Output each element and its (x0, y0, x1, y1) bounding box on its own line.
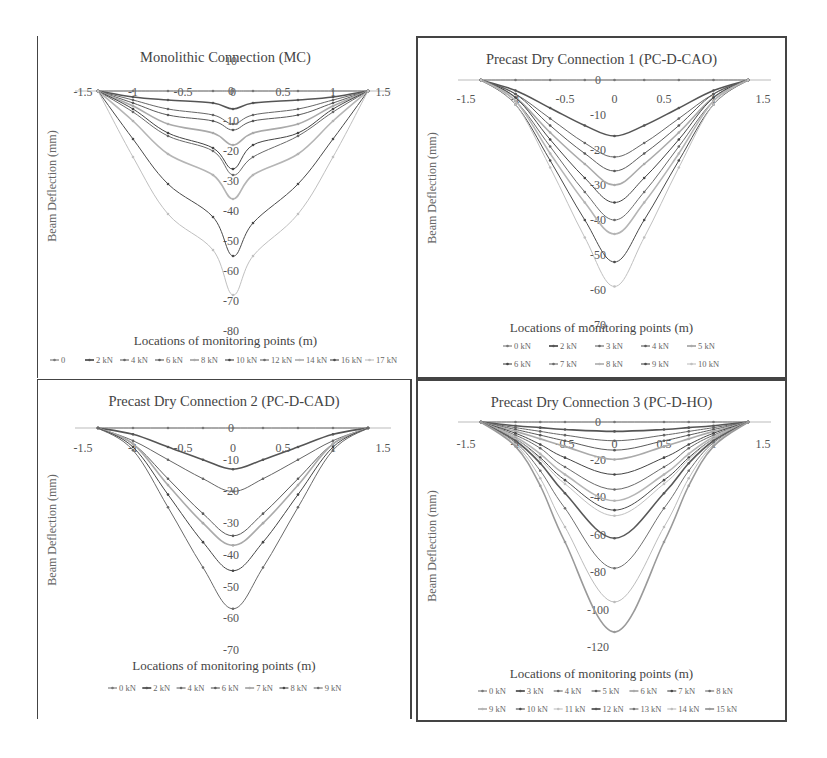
legend-marker-icon (123, 359, 126, 362)
data-marker (643, 177, 646, 180)
data-marker (584, 124, 587, 127)
data-marker (167, 135, 170, 138)
data-marker (539, 430, 542, 433)
legend-marker-icon (158, 359, 161, 362)
data-marker (564, 541, 567, 544)
data-marker (643, 201, 646, 204)
legend-item: 12 kN (260, 355, 292, 365)
legend-marker-icon (644, 363, 647, 366)
data-marker (613, 156, 616, 159)
data-marker (202, 512, 205, 515)
x-tick-label: 0.5 (657, 437, 672, 451)
legend-label: 8 kN (606, 359, 623, 369)
legend-label: 13 kN (640, 704, 661, 714)
data-marker (584, 177, 587, 180)
legend-marker-icon (595, 690, 598, 693)
y-tick-label: -30 (223, 174, 239, 188)
chart-ho: Precast Dry Connection 3 (PC-D-HO)-1.5-1… (418, 381, 785, 720)
legend-item: 7 kN (667, 686, 695, 696)
legend-marker-icon (519, 708, 522, 711)
data-marker (663, 483, 666, 486)
data-marker (687, 421, 690, 424)
chart-cad: Precast Dry Connection 2 (PC-D-CAD)-1.5-… (38, 380, 410, 718)
data-marker (663, 479, 666, 482)
data-marker (687, 443, 690, 446)
y-tick-label: -50 (590, 248, 606, 262)
data-marker (539, 477, 542, 480)
data-marker (167, 90, 170, 93)
legend-marker-icon (633, 708, 636, 711)
data-marker (132, 433, 135, 436)
data-marker (712, 93, 715, 96)
legend-label: 9 kN (325, 683, 342, 693)
data-marker (613, 233, 616, 236)
legend-item: 3 kN (595, 341, 623, 351)
legend-marker-icon (88, 359, 91, 362)
data-marker (167, 506, 170, 509)
data-marker (252, 90, 255, 93)
data-marker (167, 446, 170, 449)
data-marker (712, 103, 715, 106)
data-marker (297, 477, 300, 480)
data-marker (332, 446, 335, 449)
data-marker (332, 156, 335, 159)
data-marker (297, 108, 300, 111)
legend-marker-icon (248, 687, 251, 690)
panel-precast-dry-connection-1: Precast Dry Connection 1 (PC-D-CAO)-1.5-… (416, 36, 787, 379)
data-marker (712, 89, 715, 92)
data-marker (132, 449, 135, 452)
data-marker (663, 445, 666, 448)
data-marker (167, 427, 170, 430)
legend-marker-icon (506, 345, 509, 348)
chart-title: Precast Dry Connection 1 (PC-D-CAO) (486, 51, 717, 68)
legend-marker-icon (552, 345, 555, 348)
legend-label: 7 kN (560, 359, 577, 369)
data-marker (549, 138, 552, 141)
data-marker (167, 108, 170, 111)
legend-item: 14 kN (667, 704, 699, 714)
legend-item: 11 kN (554, 704, 586, 714)
data-marker (687, 462, 690, 465)
data-marker (332, 111, 335, 114)
x-axis-label: Locations of monitoring points (m) (134, 333, 317, 348)
series-line (98, 91, 368, 175)
data-marker (514, 79, 517, 82)
data-marker (643, 79, 646, 82)
chart-title: Precast Dry Connection 3 (PC-D-HO) (491, 394, 713, 411)
data-marker (212, 147, 215, 150)
legend-label: 14 kN (306, 355, 327, 365)
data-marker (252, 222, 255, 225)
data-marker (549, 159, 552, 162)
legend-label: 2 kN (96, 355, 113, 365)
data-marker (643, 219, 646, 222)
data-marker (480, 421, 483, 424)
data-marker (712, 79, 715, 82)
data-marker (167, 183, 170, 186)
legend-marker-icon (145, 687, 148, 690)
data-marker (549, 107, 552, 110)
data-marker (132, 156, 135, 159)
legend-item: 10 kN (225, 355, 257, 365)
legend-item: 14 kN (295, 355, 327, 365)
data-marker (132, 439, 135, 442)
data-marker (663, 421, 666, 424)
x-tick-label: -1.5 (457, 437, 476, 451)
data-marker (663, 439, 666, 442)
data-marker (367, 90, 370, 93)
data-marker (514, 89, 517, 92)
legend-label: 7 kN (256, 683, 273, 693)
data-marker (202, 458, 205, 461)
data-marker (514, 96, 517, 99)
y-tick-label: -20 (223, 144, 239, 158)
data-marker (678, 107, 681, 110)
x-tick-label: 1.5 (756, 437, 771, 451)
data-marker (297, 458, 300, 461)
data-marker (332, 96, 335, 99)
legend-marker-icon (519, 690, 522, 693)
data-marker (132, 138, 135, 141)
data-marker (212, 216, 215, 219)
data-marker (232, 144, 235, 147)
legend-item: 10 kN (516, 704, 548, 714)
legend-label: 0 kN (119, 683, 136, 693)
data-marker (132, 105, 135, 108)
